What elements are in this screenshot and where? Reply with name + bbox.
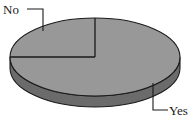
pie-chart-svg: No Yes — [0, 0, 193, 122]
no-callout-group: No — [3, 2, 43, 31]
pie-chart-figure: No Yes — [0, 0, 193, 122]
yes-slice-label: Yes — [169, 103, 188, 118]
no-slice-label: No — [3, 2, 19, 17]
